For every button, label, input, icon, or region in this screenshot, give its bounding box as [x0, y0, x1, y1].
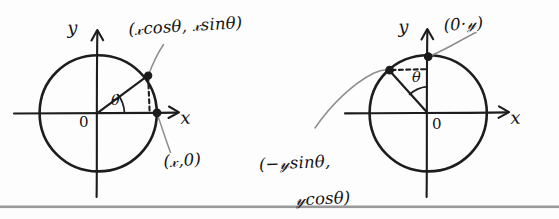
- left-origin-label: 0: [79, 114, 89, 130]
- right-x-axis-label: x: [510, 108, 521, 128]
- right-rotated-point-label-line2: 𝓎cosθ): [282, 189, 351, 210]
- left-original-point-leader: [157, 113, 171, 152]
- right-origin-label: 0: [432, 116, 442, 132]
- right-original-point-dot: [424, 53, 432, 61]
- left-x-axis-label: x: [180, 108, 191, 128]
- left-y-axis-label: y: [67, 18, 78, 38]
- left-theta-label: θ: [111, 93, 120, 109]
- left-original-point-label: (𝓍,0): [163, 151, 202, 171]
- right-original-point-leader: [431, 33, 477, 56]
- right-rotated-point-label-line1: (−𝓎sinθ,: [259, 152, 350, 174]
- right-rotated-point-dot: [386, 66, 394, 74]
- right-original-point-label: (0·𝓎): [443, 14, 484, 35]
- left-rotated-point-dot: [145, 72, 152, 79]
- left-rotated-point-leader: [148, 45, 163, 76]
- right-rotated-point-label: (−𝓎sinθ, 𝓎cosθ): [257, 115, 352, 219]
- left-original-point-dot: [153, 109, 161, 117]
- right-projection-dashed-line: [392, 69, 427, 70]
- right-radius-line: [389, 71, 427, 113]
- left-diagram-group: [14, 30, 179, 197]
- right-y-axis-label: y: [398, 17, 409, 37]
- right-theta-arc: [410, 87, 428, 95]
- figure-canvas: y x 0 θ (𝓍cosθ, 𝓍sinθ) (𝓍,0) y x 0 θ (0·…: [0, 0, 559, 219]
- right-theta-label: θ: [412, 70, 421, 86]
- left-radius-line: [98, 76, 148, 113]
